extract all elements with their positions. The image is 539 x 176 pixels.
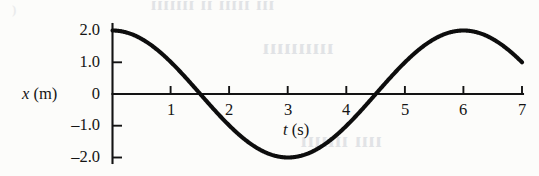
y-tick-label-1.0: 1.0: [38, 54, 100, 71]
y-tick-label-2.0: 2.0: [38, 22, 100, 39]
x-axis-ticks: [171, 86, 522, 94]
x-tick-label-2: 2: [214, 102, 244, 119]
x-tick-label-7: 7: [507, 102, 537, 119]
x-tick-label-6: 6: [448, 102, 478, 119]
y-tick-label-0: 0: [38, 86, 100, 103]
x-tick-label-5: 5: [390, 102, 420, 119]
position-vs-time-figure: ııı ııııı ıı ııııııı ıııııııııı ıııı ııı…: [0, 0, 539, 176]
x-tick-label-1: 1: [156, 102, 186, 119]
x-tick-label-4: 4: [331, 102, 361, 119]
x-tick-label-3: 3: [273, 102, 303, 119]
y-tick-label-neg2.0: –2.0: [33, 149, 100, 166]
y-tick-label-neg1.0: –1.0: [33, 117, 100, 134]
x-axis-title-unit: (s): [292, 120, 309, 139]
x-axis-title: t (s): [283, 122, 309, 139]
